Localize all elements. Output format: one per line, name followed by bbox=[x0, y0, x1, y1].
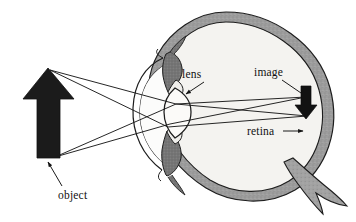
label-image: image bbox=[254, 66, 283, 79]
label-retina: retina bbox=[247, 125, 274, 137]
ciliary-attachment-bottom bbox=[168, 175, 185, 195]
object-arrow bbox=[23, 68, 74, 158]
label-object-group: object bbox=[48, 162, 88, 202]
leader-line-object bbox=[48, 162, 62, 186]
label-object: object bbox=[58, 189, 88, 202]
eyeball-group bbox=[133, 12, 347, 214]
eye-diagram: lens image retina object bbox=[0, 0, 356, 222]
label-lens: lens bbox=[182, 68, 202, 80]
eye-diagram-canvas: lens image retina object bbox=[0, 0, 356, 222]
limbus-bottom bbox=[158, 170, 162, 181]
